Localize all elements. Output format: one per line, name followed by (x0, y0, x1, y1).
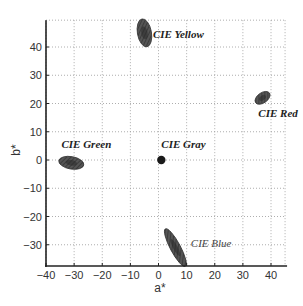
y-axis-label: b* (9, 144, 23, 156)
x-tick-label: 10 (181, 269, 193, 281)
y-tick-label: −30 (23, 239, 42, 251)
x-tick-label: 40 (265, 269, 277, 281)
cie-yellow-cluster (135, 18, 154, 48)
x-tick-label: −40 (37, 269, 56, 281)
annotation-cie-blue: CIE Blue (191, 237, 232, 249)
cie-gray-point (157, 156, 165, 164)
cie-green-cluster (58, 155, 85, 172)
x-tick-label: −30 (65, 269, 84, 281)
cie-red-cluster (253, 89, 273, 107)
x-tick-label: −20 (93, 269, 112, 281)
y-tick-label: 0 (36, 154, 42, 166)
y-tick-label: −20 (23, 211, 42, 223)
x-tick-label: 30 (237, 269, 249, 281)
annotation-cie-green: CIE Green (61, 138, 111, 150)
x-tick-label: −10 (121, 269, 140, 281)
y-tick-label: −10 (23, 182, 42, 194)
x-tick-label: 0 (155, 269, 161, 281)
x-axis-label: a* (154, 281, 166, 295)
chart: −40−30−20−10010203040−30−20−10010203040 … (0, 0, 303, 306)
y-tick-label: 30 (30, 69, 42, 81)
annotation-cie-gray: CIE Gray (161, 138, 205, 150)
annotation-cie-red: CIE Red (258, 107, 298, 119)
y-tick-label: 20 (30, 98, 42, 110)
y-tick-label: 40 (30, 41, 42, 53)
cie-blue-cluster (161, 226, 190, 268)
x-tick-label: 20 (209, 269, 221, 281)
y-tick-label: 10 (30, 126, 42, 138)
annotation-cie-yellow: CIE Yellow (153, 28, 205, 40)
